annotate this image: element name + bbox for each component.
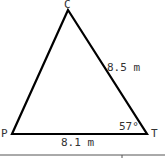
angle-label-t: 57° xyxy=(119,120,139,133)
vertex-label-p: P xyxy=(1,127,8,140)
vertex-label-c: C xyxy=(64,0,71,11)
side-label-pt: 8.1 m xyxy=(61,136,94,149)
side-label-ct: 8.5 m xyxy=(107,61,140,74)
triangle-diagram: C P T 8.5 m 8.1 m 57° xyxy=(0,0,165,158)
vertex-label-t: T xyxy=(151,127,158,140)
